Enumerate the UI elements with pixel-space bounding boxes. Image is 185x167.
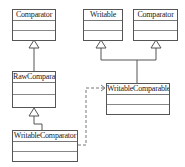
class-name: WritableComparator	[13, 131, 77, 142]
methods-section	[84, 31, 122, 41]
methods-section	[13, 31, 55, 41]
methods-section	[13, 152, 77, 162]
methods-section	[13, 95, 55, 108]
methods-section	[107, 105, 169, 115]
attributes-section	[13, 21, 55, 31]
generalization-arrow-icon	[96, 40, 106, 48]
class-name: Writable	[84, 10, 122, 21]
class-comparator-left: Comparator	[12, 9, 56, 41]
attributes-section	[134, 21, 177, 31]
generalization-arrow-icon	[151, 40, 161, 48]
class-writable-comparable: WritableComparable	[106, 83, 170, 115]
attributes-section	[107, 95, 169, 105]
class-comparator-right: Comparator	[133, 9, 178, 41]
methods-section	[134, 31, 177, 41]
class-name: Comparator	[13, 10, 55, 21]
class-writable: Writable	[83, 9, 123, 41]
attributes-section	[84, 21, 122, 31]
class-name: Comparator	[134, 10, 177, 21]
class-name: RawComparator	[13, 72, 55, 83]
class-writable-comparator: WritableComparator	[12, 130, 78, 162]
class-raw-comparator: RawComparator	[12, 71, 56, 108]
class-name: WritableComparable	[107, 84, 169, 95]
generalization-arrow-icon	[29, 108, 39, 116]
generalization-arrow-icon	[29, 40, 39, 48]
attributes-section	[13, 142, 77, 152]
attributes-section	[13, 83, 55, 95]
